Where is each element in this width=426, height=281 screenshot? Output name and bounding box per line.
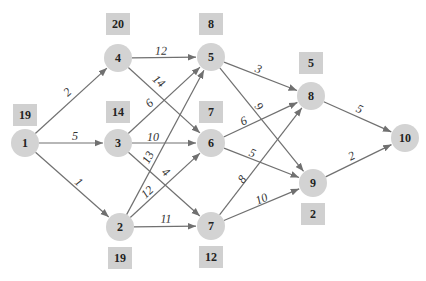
node-label: 5 <box>208 50 214 64</box>
edge-weight-label: 4 <box>159 165 173 179</box>
value-box-label: 5 <box>308 56 314 70</box>
node-label: 8 <box>308 89 314 103</box>
value-box-label: 12 <box>205 250 217 264</box>
node-label: 4 <box>115 51 121 65</box>
value-box-label: 19 <box>19 108 31 122</box>
edge-weight-label: 5 <box>72 129 78 143</box>
edge-weight-label: 10 <box>147 130 159 144</box>
value-box-label: 14 <box>112 105 124 119</box>
edge-weight-label: 1 <box>72 175 86 189</box>
node-label: 2 <box>117 220 123 234</box>
value-box-label: 7 <box>208 105 214 119</box>
edge-weight-label: 2 <box>60 85 74 99</box>
edge-weight-label: 14 <box>150 72 168 90</box>
node-label: 7 <box>208 219 214 233</box>
edge-weight-label: 6 <box>238 113 249 128</box>
edge-3-7 <box>128 152 199 216</box>
edge-2-7 <box>134 226 196 227</box>
edge-weight-label: 9 <box>252 99 267 112</box>
value-box-label: 8 <box>208 17 214 31</box>
graph-svg: 25112146104131211396581052 1920814752191… <box>0 0 426 281</box>
edge-weight-label: 12 <box>155 44 167 58</box>
edge-weight-label: 12 <box>138 183 156 201</box>
value-box-label: 19 <box>114 251 126 265</box>
value-box-label: 20 <box>112 17 124 31</box>
edge-weight-label: 5 <box>354 101 365 116</box>
edge-weight-label: 5 <box>247 145 258 160</box>
node-label: 10 <box>399 131 411 145</box>
node-label: 6 <box>208 136 214 150</box>
value-box-label: 2 <box>310 207 316 221</box>
edge-weight-label: 2 <box>346 148 358 163</box>
node-label: 1 <box>22 136 28 150</box>
edge-weight-label: 10 <box>253 190 270 208</box>
edge-weight-label: 6 <box>142 96 156 110</box>
edge-weight-label: 3 <box>252 61 264 77</box>
node-label: 3 <box>115 136 121 150</box>
node-label: 9 <box>310 176 316 190</box>
boxes-layer: 19208147521912 <box>13 13 325 269</box>
edge-9-10 <box>326 145 392 177</box>
edge-weight-label: 11 <box>160 212 171 226</box>
network-diagram: 25112146104131211396581052 1920814752191… <box>0 0 426 281</box>
edge-1-4 <box>35 68 107 133</box>
